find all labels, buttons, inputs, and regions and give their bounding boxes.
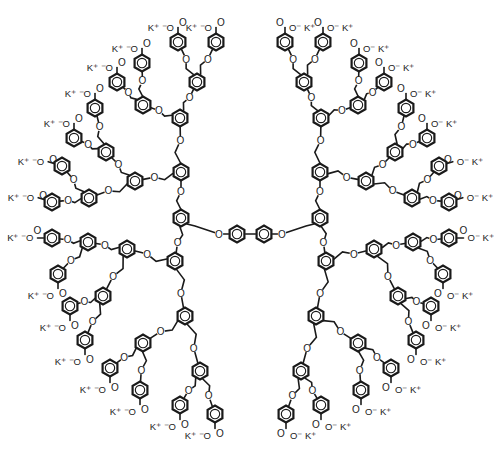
potassium-carboxylate-label: O⁻ K⁺ [289, 22, 315, 33]
oxygen-atom: O [317, 135, 325, 146]
oxygen-atom: O [343, 172, 351, 183]
oxygen-atom: O [429, 234, 437, 245]
oxygen-atom: O [101, 240, 109, 251]
oxygen-atom: O [338, 105, 346, 116]
oxygen-atom: O [373, 352, 381, 363]
carbonyl-oxygen: O [216, 428, 224, 439]
oxygen-atom: O [64, 195, 72, 206]
oxygen-atom: O [409, 139, 417, 150]
potassium-carboxylate-label: O⁻ K⁺ [457, 156, 483, 167]
oxygen-atom: O [288, 390, 296, 401]
oxygen-atom: O [389, 185, 397, 196]
benzene-ring-layer [45, 34, 457, 423]
carbonyl-oxygen: O [75, 113, 83, 124]
potassium-carboxylate-label: O⁻ K⁺ [395, 384, 421, 395]
carbonyl-oxygen: O [454, 190, 462, 201]
carbonyl-oxygen: O [141, 404, 149, 415]
potassium-carboxylate-label: O⁻ K⁺ [327, 22, 353, 33]
carbonyl-oxygen: O [86, 354, 94, 365]
carbonyl-oxygen: O [34, 225, 42, 236]
potassium-carboxylate-label: K⁺ ⁻O [87, 62, 113, 73]
potassium-carboxylate-label: O⁻ K⁺ [468, 232, 494, 243]
oxygen-atom: O [429, 195, 437, 206]
potassium-carboxylate-label: K⁺ ⁻O [186, 22, 212, 33]
carbonyl-oxygen: O [407, 354, 415, 365]
carbonyl-oxygen: O [350, 38, 358, 49]
oxygen-atom: O [190, 343, 198, 354]
oxygen-atom: O [336, 326, 344, 337]
carbonyl-oxygen: O [71, 320, 79, 331]
potassium-carboxylate-label: O⁻ K⁺ [290, 430, 316, 441]
oxygen-atom: O [186, 92, 194, 103]
oxygen-atom: O [311, 54, 319, 65]
oxygen-atom: O [397, 121, 405, 132]
oxygen-atom: O [174, 237, 182, 248]
carbonyl-oxygen: O [276, 17, 284, 28]
oxygen-atom: O [70, 174, 78, 185]
potassium-carboxylate-label: K⁺ ⁻O [7, 232, 33, 243]
potassium-carboxylate-label: O⁻ K⁺ [467, 192, 493, 203]
potassium-carboxylate-label: O⁻ K⁺ [365, 406, 391, 417]
carbonyl-oxygen: O [312, 419, 320, 430]
carbonyl-oxygen: O [39, 190, 47, 201]
potassium-carboxylate-label: K⁺ ⁻O [150, 421, 176, 432]
oxygen-atom: O [424, 174, 432, 185]
oxygen-atom: O [356, 365, 364, 376]
oxygen-atom: O [303, 343, 311, 354]
carbonyl-oxygen: O [460, 225, 468, 236]
potassium-carboxylate-label: K⁺ ⁻O [65, 88, 91, 99]
oxygen-atom: O [115, 159, 123, 170]
carbonyl-oxygen: O [352, 404, 360, 415]
oxygen-atom: O [205, 390, 213, 401]
oxygen-atom: O [316, 288, 324, 299]
oxygen-atom: O [369, 87, 377, 98]
potassium-carboxylate-label: K⁺ ⁻O [112, 43, 138, 54]
potassium-carboxylate-label: O⁻ K⁺ [363, 43, 389, 54]
carbonyl-oxygen: O [418, 113, 426, 124]
potassium-carboxylate-label: K⁺ ⁻O [8, 192, 34, 203]
oxygen-atom: O [64, 234, 72, 245]
potassium-carboxylate-label: K⁺ ⁻O [28, 290, 54, 301]
oxygen-atom: O [143, 249, 151, 260]
potassium-carboxylate-label: K⁺ ⁻O [40, 322, 66, 333]
oxygen-atom: O [392, 240, 400, 251]
core-linkage [282, 224, 314, 234]
oxygen-atom: O [355, 75, 363, 86]
carbonyl-oxygen: O [59, 288, 67, 299]
oxygen-atom: O [185, 385, 193, 396]
oxygen-atom: O [320, 237, 328, 248]
oxygen-atom: O [289, 54, 297, 65]
carbonyl-oxygen: O [96, 83, 104, 94]
potassium-carboxylate-label: K⁺ ⁻O [185, 430, 211, 441]
oxygen-atom: O [109, 271, 117, 282]
oxygen-atom: O [120, 352, 128, 363]
carbonyl-oxygen: O [382, 382, 390, 393]
oxygen-atom: O [204, 54, 212, 65]
oxygen-atom: O [278, 229, 286, 240]
oxygen-atom: O [96, 121, 104, 132]
oxygen-atom: O [105, 185, 113, 196]
carbonyl-oxygen: O [434, 288, 442, 299]
oxygen-atom: O [177, 288, 185, 299]
carbonyl-oxygen: O [397, 83, 405, 94]
oxygen-atom: O [177, 135, 185, 146]
carbonyl-oxygen: O [375, 57, 383, 68]
oxygen-atom: O [137, 365, 145, 376]
oxygen-atom: O [426, 255, 434, 266]
oxygen-atom: O [404, 316, 412, 327]
potassium-carboxylate-label: O⁻ K⁺ [420, 356, 446, 367]
carbonyl-oxygen: O [118, 57, 126, 68]
oxygen-atom: O [84, 139, 92, 150]
oxygen-atom: O [139, 75, 147, 86]
oxygen-atom: O [81, 296, 89, 307]
carbonyl-oxygen: O [422, 320, 430, 331]
carbonyl-oxygen: O [49, 154, 57, 165]
oxygen-atom: O [182, 54, 190, 65]
potassium-carboxylate-label: O⁻ K⁺ [431, 118, 457, 129]
carbonyl-oxygen: O [111, 382, 119, 393]
oxygen-atom: O [67, 255, 75, 266]
carbonyl-oxygen: O [181, 419, 189, 430]
potassium-carboxylate-label: K⁺ ⁻O [148, 22, 174, 33]
potassium-carboxylate-label: O⁻ K⁺ [388, 62, 414, 73]
potassium-carboxylate-label: K⁺ ⁻O [55, 356, 81, 367]
